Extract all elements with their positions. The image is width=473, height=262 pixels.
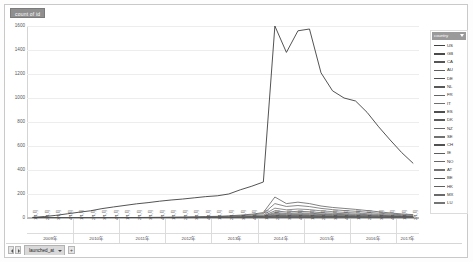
x-axis-tick: 2/1月 <box>407 219 419 233</box>
x-axis-tick: 3/1月 <box>235 219 247 233</box>
legend-color-swatch <box>434 169 445 171</box>
legend-item-dk[interactable]: DK <box>434 117 466 124</box>
legend-item-label: NO <box>447 159 453 165</box>
x-axis-separator <box>350 219 351 233</box>
x-axis-tick: 1/1月 <box>73 219 85 233</box>
legend-panel[interactable]: country USGBCAAUDENLFRITESDKNZSECHIENOAT… <box>430 30 468 214</box>
legend-header[interactable]: country <box>432 32 466 40</box>
x-axis-tick: 4/1月 <box>292 219 304 233</box>
x-axis-tick-label: 2/1月 <box>183 210 188 220</box>
y-axis-tick-label: 400 <box>3 167 25 173</box>
x-axis-tick: 3/1月 <box>188 219 200 233</box>
add-sheet-button[interactable]: + <box>68 246 75 254</box>
legend-color-swatch <box>434 144 445 146</box>
x-axis-tick-label: 1/1月 <box>33 210 38 220</box>
legend-item-hk[interactable]: HK <box>434 183 466 190</box>
legend-item-it[interactable]: IT <box>434 100 466 107</box>
legend-item-label: US <box>447 43 453 49</box>
x-axis-tick-label: 2/1月 <box>91 210 96 220</box>
x-axis-tick-label: 2/1月 <box>321 210 326 220</box>
y-axis-tick-label: 1200 <box>3 71 25 77</box>
x-axis-tick: 4/1月 <box>384 219 396 233</box>
x-axis-tick-label: 4/1月 <box>206 210 211 220</box>
x-axis-tick-label: 4/1月 <box>68 210 73 220</box>
x-axis-tick-label: 1/1月 <box>310 210 315 220</box>
x-axis-year-label: 2014年 <box>258 235 304 241</box>
x-axis-year-label: 2013年 <box>211 235 257 241</box>
x-axis-tick: 3/1月 <box>50 219 62 233</box>
x-axis-separator <box>304 219 305 233</box>
legend-color-swatch <box>434 161 445 163</box>
legend-color-swatch <box>434 128 445 130</box>
x-axis-tick: 4/1月 <box>200 219 212 233</box>
x-axis-tick-label: 3/1月 <box>148 210 153 220</box>
legend-item-at[interactable]: AT <box>434 167 466 174</box>
x-axis-tick: 2/1月 <box>315 219 327 233</box>
legend-item-ch[interactable]: CH <box>434 142 466 149</box>
x-axis-tick: 1/1月 <box>165 219 177 233</box>
spreadsheet-chart-window: count of id 0200400600800100012001400160… <box>0 0 473 262</box>
x-axis-separator <box>165 219 166 233</box>
x-axis-tick-label: 1/1月 <box>125 210 130 220</box>
x-axis-tick: 3/1月 <box>142 219 154 233</box>
y-axis-tick-label: 1600 <box>3 23 25 29</box>
legend-item-nl[interactable]: NL <box>434 84 466 91</box>
x-axis-separator <box>211 219 212 233</box>
legend-item-label: IE <box>447 150 451 156</box>
prev-sheet-icon[interactable] <box>8 246 14 254</box>
legend-item-us[interactable]: US <box>434 42 466 49</box>
x-axis-tick-label: 3/1月 <box>287 210 292 220</box>
next-sheet-icon[interactable] <box>15 246 21 254</box>
legend-item-ie[interactable]: IE <box>434 150 466 157</box>
x-axis: 1/1月2/1月3/1月4/1月1/1月2/1月3/1月4/1月1/1月2/1月… <box>27 218 419 244</box>
plot-area <box>27 26 419 218</box>
x-axis-tick-label: 4/1月 <box>114 210 119 220</box>
legend-color-swatch <box>434 178 445 180</box>
x-axis-tick-label: 3/1月 <box>194 210 199 220</box>
y-axis-tick-label: 1000 <box>3 95 25 101</box>
sheet-tab-label: launched_at <box>29 248 54 253</box>
series-line <box>33 26 413 217</box>
legend-item-label: HK <box>447 184 453 190</box>
chevron-down-icon[interactable] <box>58 250 62 252</box>
legend-color-swatch <box>434 103 445 105</box>
x-axis-tick: 2/1月 <box>85 219 97 233</box>
x-axis-tick: 2/1月 <box>131 219 143 233</box>
legend-item-mx[interactable]: MX <box>434 191 466 198</box>
legend-item-de[interactable]: DE <box>434 75 466 82</box>
legend-color-swatch <box>434 153 445 155</box>
x-axis-tick-label: 1/1月 <box>171 210 176 220</box>
legend-item-label: FR <box>447 92 453 98</box>
x-axis-tick-label: 1/1月 <box>217 210 222 220</box>
x-axis-year-label: 2010年 <box>73 235 119 241</box>
legend-color-swatch <box>434 194 445 196</box>
x-axis-tick: 3/1月 <box>373 219 385 233</box>
sheet-tab-launched-at[interactable]: launched_at <box>24 245 65 255</box>
legend-color-swatch <box>434 53 445 55</box>
legend-item-es[interactable]: ES <box>434 108 466 115</box>
legend-item-label: CA <box>447 59 453 65</box>
x-axis-tick: 1/1月 <box>211 219 223 233</box>
legend-item-lu[interactable]: LU <box>434 200 466 207</box>
legend-item-se[interactable]: SE <box>434 133 466 140</box>
legend-item-label: GB <box>447 51 453 57</box>
legend-item-no[interactable]: NO <box>434 158 466 165</box>
x-axis-tick-label: 3/1月 <box>379 210 384 220</box>
y-axis-tick-label: 1400 <box>3 47 25 53</box>
legend-item-ca[interactable]: CA <box>434 59 466 66</box>
legend-item-be[interactable]: BE <box>434 175 466 182</box>
x-axis-year-label: 2016年 <box>350 235 396 241</box>
legend-item-au[interactable]: AU <box>434 67 466 74</box>
legend-item-gb[interactable]: GB <box>434 50 466 57</box>
legend-item-nz[interactable]: NZ <box>434 125 466 132</box>
x-axis-tick: 1/1月 <box>304 219 316 233</box>
legend-item-label: AU <box>447 67 453 73</box>
chart-title-chip[interactable]: count of id <box>10 8 45 18</box>
x-axis-year-label: 2009年 <box>27 235 73 241</box>
legend-item-fr[interactable]: FR <box>434 92 466 99</box>
chevron-down-icon[interactable] <box>460 34 464 37</box>
x-axis-tick-label: 4/1月 <box>298 210 303 220</box>
x-axis-separator <box>73 219 74 233</box>
x-axis-tick: 4/1月 <box>154 219 166 233</box>
x-axis-tick-label: 3/1月 <box>56 210 61 220</box>
